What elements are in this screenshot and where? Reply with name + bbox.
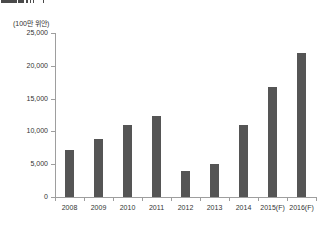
clipped-title-fragment [18,0,24,3]
clipped-title-fragment [13,0,17,3]
x-axis-tick-label: 2016(F) [287,204,316,212]
x-axis-tick-label: 2014 [229,204,258,212]
y-axis-tick [51,66,55,67]
x-axis-tick-label: 2011 [142,204,171,212]
y-axis-tick-label: 20,000 [0,62,48,70]
bar-2008 [65,150,74,197]
bar-2010 [123,125,132,197]
clipped-title-fragment [5,0,9,3]
clipped-title-fragment [9,0,13,3]
y-axis-tick-label: 0 [0,193,48,201]
x-axis-tick-label: 2012 [171,204,200,212]
x-axis-tick-label: 2010 [113,204,142,212]
x-axis-tick [171,198,172,201]
x-axis-tick [142,198,143,201]
y-axis-tick [51,131,55,132]
clipped-title-fragment [1,0,5,3]
x-axis-tick-label: 2008 [55,204,84,212]
x-axis-tick [316,198,317,201]
x-axis-tick [229,198,230,201]
x-axis-tick [200,198,201,201]
x-axis-tick [55,198,56,201]
clipped-title-fragments [0,0,330,4]
bar-2016(F) [297,53,306,197]
clipped-title-fragment [26,0,28,3]
bar-chart: (100만 위안) 05,00010,00015,00020,00025,000… [0,0,330,226]
bar-2012 [181,171,190,197]
y-axis-tick-label: 25,000 [0,29,48,37]
x-axis-tick [258,198,259,201]
y-axis-tick [51,164,55,165]
y-axis-tick [51,99,55,100]
bar-2013 [210,164,219,197]
x-axis-tick-label: 2015(F) [258,204,287,212]
y-axis-tick-label: 15,000 [0,95,48,103]
y-axis-tick [51,33,55,34]
x-axis-tick [84,198,85,201]
bar-2014 [239,125,248,197]
bar-2009 [94,139,103,197]
x-axis-tick-label: 2013 [200,204,229,212]
clipped-title-fragment [30,0,32,3]
bar-2011 [152,116,161,197]
y-axis-unit-label: (100만 위안) [13,20,49,28]
bar-2015(F) [268,87,277,197]
y-axis-tick-label: 10,000 [0,127,48,135]
x-axis-tick [113,198,114,201]
clipped-title-fragment [33,0,34,3]
clipped-title-fragment [43,0,45,3]
x-axis-tick-label: 2009 [84,204,113,212]
x-axis-tick [287,198,288,201]
y-axis-tick-label: 5,000 [0,160,48,168]
